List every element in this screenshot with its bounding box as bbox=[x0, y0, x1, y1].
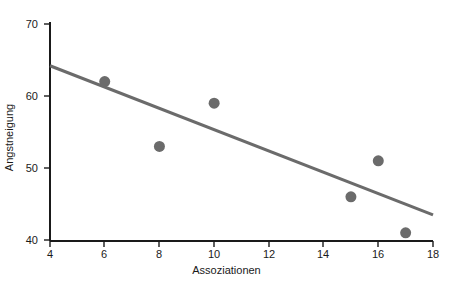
x-tick-label-18: 18 bbox=[427, 249, 439, 260]
data-point-markers bbox=[99, 76, 411, 238]
x-tick-label-6: 6 bbox=[101, 249, 107, 260]
x-tick-label-16: 16 bbox=[372, 249, 384, 260]
plot-canvas bbox=[0, 0, 453, 285]
data-point bbox=[209, 98, 220, 109]
y-tick-label-60: 60 bbox=[12, 91, 38, 102]
x-tick-label-4: 4 bbox=[47, 249, 53, 260]
data-point bbox=[99, 76, 110, 87]
y-axis-title: Angstneigung bbox=[4, 98, 15, 178]
data-point bbox=[345, 191, 356, 202]
x-axis-title: Assoziationen bbox=[0, 265, 453, 276]
data-point bbox=[400, 227, 411, 238]
regression-trend-line bbox=[50, 66, 433, 215]
x-tick-label-8: 8 bbox=[156, 249, 162, 260]
y-tick-label-40: 40 bbox=[12, 235, 38, 246]
data-point bbox=[154, 141, 165, 152]
x-tick-label-14: 14 bbox=[317, 249, 329, 260]
x-tick-label-12: 12 bbox=[263, 249, 275, 260]
x-tick-label-10: 10 bbox=[208, 249, 220, 260]
data-point bbox=[373, 155, 384, 166]
y-tick-label-70: 70 bbox=[12, 19, 38, 30]
y-tick-label-50: 50 bbox=[12, 163, 38, 174]
scatter-plot-figure: 70 60 50 40 4 6 8 10 12 14 16 18 Assozia… bbox=[0, 0, 453, 285]
